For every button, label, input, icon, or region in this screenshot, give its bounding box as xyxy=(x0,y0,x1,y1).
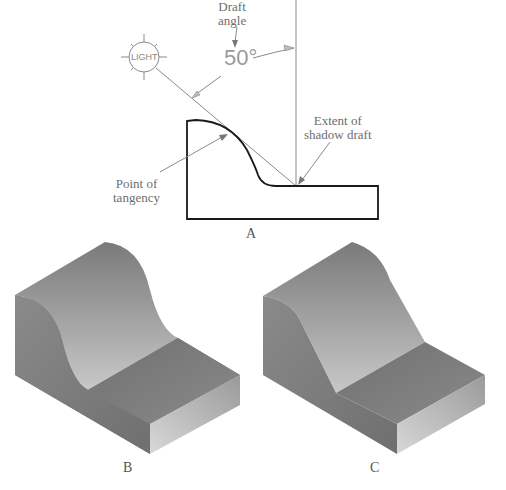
caption-a: A xyxy=(246,226,256,242)
draft-angle-leader xyxy=(235,27,237,42)
draft-angle-line1: Draft xyxy=(218,0,246,14)
draft-angle-label: Draft angle xyxy=(218,0,246,28)
tangency-line1: Point of xyxy=(113,177,160,191)
draft-angle-line2: angle xyxy=(218,14,246,28)
iso-block-c xyxy=(263,242,485,454)
caption-c: C xyxy=(370,460,379,476)
tangency-line2: tangency xyxy=(113,191,160,205)
light-label: LIGHT xyxy=(131,52,158,62)
extent-line1: Extent of xyxy=(304,114,372,128)
angle-arrow-to-ray xyxy=(195,76,221,95)
iso-block-b xyxy=(15,242,240,454)
caption-b: B xyxy=(123,460,132,476)
extent-label: Extent of shadow draft xyxy=(304,114,372,142)
extent-line2: shadow draft xyxy=(304,128,372,142)
diagram-canvas xyxy=(0,0,506,490)
angle-value: 50° xyxy=(224,45,257,71)
tangency-label: Point of tangency xyxy=(113,177,160,205)
light-ray xyxy=(156,68,296,186)
